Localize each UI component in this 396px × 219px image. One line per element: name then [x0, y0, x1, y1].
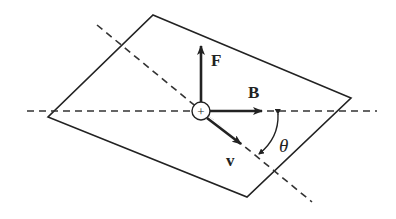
velocity-arrow: [207, 118, 241, 144]
angle-label: θ: [279, 135, 288, 156]
field-label: B: [248, 83, 259, 102]
velocity-label: v: [226, 151, 235, 170]
force-label: F: [211, 51, 221, 70]
magnetic-force-diagram: + F B v θ: [0, 0, 396, 219]
angle-arc: [259, 114, 278, 154]
charge-sign: +: [197, 104, 204, 119]
